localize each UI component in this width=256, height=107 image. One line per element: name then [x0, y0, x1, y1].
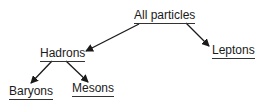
node-leptons: Leptons — [212, 44, 255, 59]
particle-classification-diagram: All particles Hadrons Leptons Baryons Me… — [0, 0, 256, 107]
arrow-hadrons-to-baryons — [31, 61, 52, 83]
node-all-particles: All particles — [134, 9, 195, 24]
node-hadrons: Hadrons — [40, 47, 85, 62]
node-baryons: Baryons — [9, 85, 53, 100]
arrow-hadrons-to-mesons — [66, 61, 88, 82]
node-mesons: Mesons — [72, 82, 114, 97]
arrow-root-to-leptons — [186, 23, 209, 46]
arrow-root-to-hadrons — [86, 24, 139, 51]
